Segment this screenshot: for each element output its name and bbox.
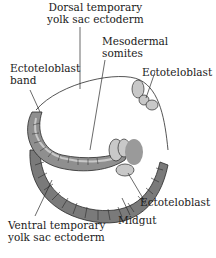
label-mesodermal-somites: Mesodermal somites <box>102 35 168 59</box>
label-ectoteloblast-bottom: Ectoteloblast <box>140 196 210 208</box>
label-dorsal-temporary-yolk-sac-ectoderm: Dorsal temporary yolk sac ectoderm <box>47 1 144 25</box>
label-mesodermal-line1: Mesodermal <box>102 35 168 47</box>
label-ectoteloblast-band: Ectoteloblast band <box>10 62 80 86</box>
label-ectoteloblast-band-line1: Ectoteloblast <box>10 62 80 74</box>
label-ventral-line1: Ventral temporary <box>8 219 105 231</box>
label-ectoteloblast-band-line2: band <box>10 74 80 86</box>
label-dorsal-line1: Dorsal temporary <box>47 1 144 13</box>
ectoteloblast-cell-3 <box>146 100 158 110</box>
label-midgut: Midgut <box>118 214 157 226</box>
label-ventral-line2: yolk sac ectoderm <box>8 231 105 243</box>
posterior-lobe-4 <box>116 164 134 176</box>
label-mesodermal-line2: somites <box>102 47 168 59</box>
leader-mesodermal <box>90 60 105 150</box>
leader-ectoteloblast-band <box>30 90 40 112</box>
label-dorsal-line2: yolk sac ectoderm <box>47 13 144 25</box>
label-ectoteloblast-top: Ectoteloblast <box>142 66 212 78</box>
label-ventral-temporary-yolk-sac-ectoderm: Ventral temporary yolk sac ectoderm <box>8 219 105 243</box>
dorsal-membrane <box>36 77 168 150</box>
posterior-lobe-3 <box>125 139 143 165</box>
